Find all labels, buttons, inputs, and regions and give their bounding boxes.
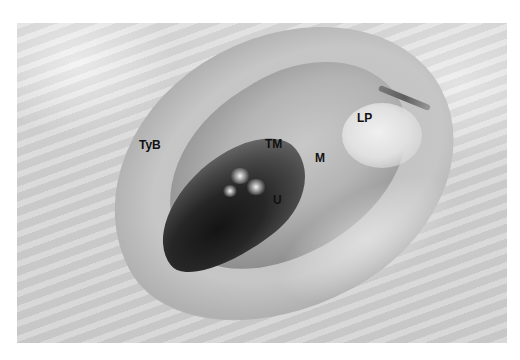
lenticular-process-region [342,103,422,168]
surgical-photo [17,23,507,343]
label-tm: TM [265,138,282,150]
label-u: U [273,194,282,206]
label-tyb: TyB [139,139,161,151]
label-lp: LP [357,112,372,124]
membrane-highlight [222,185,238,197]
label-m: M [315,152,325,164]
membrane-highlight [245,179,267,195]
